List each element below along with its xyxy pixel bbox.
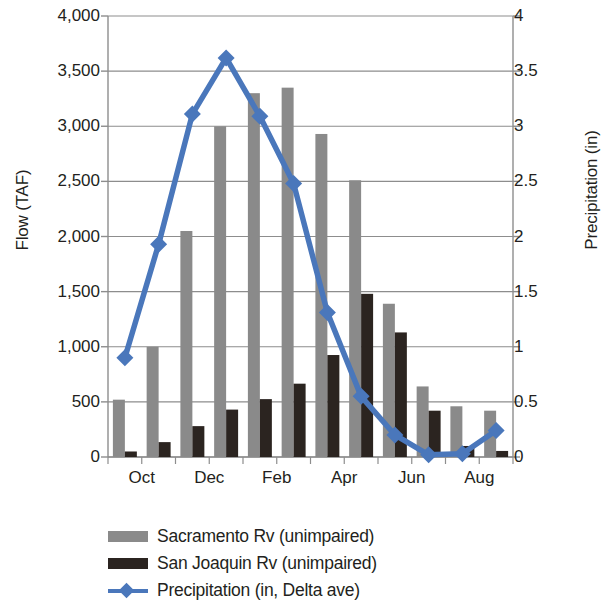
chart-legend: Sacramento Rv (unimpaired) San Joaquin R… <box>108 523 528 604</box>
x-axis-tick-label-oct: Oct <box>112 468 172 488</box>
x-axis-tick-label-jun: Jun <box>382 468 442 488</box>
legend-item-sacramento: Sacramento Rv (unimpaired) <box>108 523 528 550</box>
legend-label-san-joaquin: San Joaquin Rv (unimpaired) <box>157 553 377 574</box>
legend-label-sacramento: Sacramento Rv (unimpaired) <box>157 526 374 547</box>
x-axis-tick-label-dec: Dec <box>179 468 239 488</box>
x-axis-tick-label-feb: Feb <box>247 468 307 488</box>
legend-item-precipitation: Precipitation (in, Delta ave) <box>108 577 528 604</box>
legend-swatch-sacramento <box>108 531 148 542</box>
legend-item-san-joaquin: San Joaquin Rv (unimpaired) <box>108 550 528 577</box>
legend-marker-precipitation-line-diamond <box>108 583 148 599</box>
x-axis-tick-label-aug: Aug <box>449 468 509 488</box>
legend-label-precipitation: Precipitation (in, Delta ave) <box>157 580 360 601</box>
legend-swatch-san-joaquin <box>108 558 148 569</box>
x-axis-tick-label-apr: Apr <box>314 468 374 488</box>
